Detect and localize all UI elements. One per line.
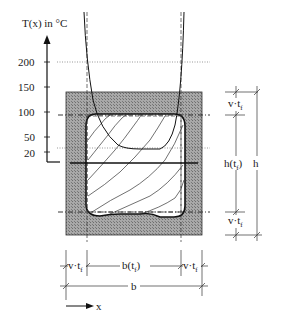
axis-title: T(x) in °C (22, 17, 67, 30)
x-axis-label: x (96, 300, 102, 312)
dim-full-width: b (131, 280, 137, 292)
tick-label-50: 50 (24, 131, 36, 143)
temperature-axis (44, 35, 61, 162)
tick-label-20: 20 (24, 147, 36, 159)
tick-label-150: 150 (18, 81, 35, 93)
tick-label-100: 100 (18, 106, 35, 118)
x-axis-arrow (66, 303, 94, 309)
dim-full-height: h (253, 157, 259, 169)
tick-label-200: 200 (18, 56, 35, 68)
fire-section-diagram: T(x) in °C 200 150 100 50 20 v·tf h(tf) … (0, 0, 282, 324)
